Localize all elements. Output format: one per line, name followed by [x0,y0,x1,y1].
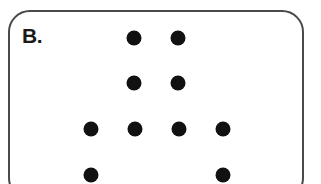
dot-icon [172,122,187,137]
dot-icon [84,168,99,183]
dot-icon [216,168,231,183]
dot-icon [84,122,99,137]
dot-icon [171,31,186,46]
panel-label: B. [22,24,42,48]
dot-icon [171,76,186,91]
dot-icon [127,31,142,46]
dot-icon [127,76,142,91]
figure-panel [8,10,304,184]
dot-icon [216,122,231,137]
dot-icon [128,122,143,137]
